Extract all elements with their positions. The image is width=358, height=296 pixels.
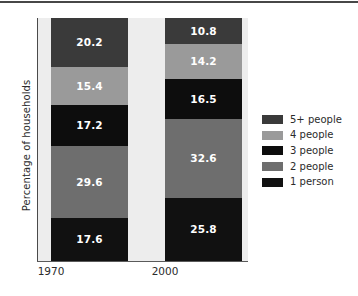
legend-swatch-icon xyxy=(262,178,283,187)
y-axis-title: Percentage of households xyxy=(21,46,32,246)
legend-item-5--people[interactable]: 5+ people xyxy=(262,112,354,128)
bar-segment-3-people[interactable]: 17.2 xyxy=(51,105,128,147)
bar-segment-value: 32.6 xyxy=(190,153,217,164)
bar-segment-5--people[interactable]: 20.2 xyxy=(51,18,128,67)
bar-segment-4-people[interactable]: 14.2 xyxy=(165,44,242,79)
bar-2000[interactable]: 25.832.616.514.210.8 xyxy=(165,18,242,261)
bar-segment-1-person[interactable]: 17.6 xyxy=(51,218,128,261)
legend-item-4-people[interactable]: 4 people xyxy=(262,128,354,144)
legend-swatch-icon xyxy=(262,131,283,140)
bar-segment-2-people[interactable]: 32.6 xyxy=(165,119,242,198)
bar-segment-value: 15.4 xyxy=(76,81,103,92)
legend-swatch-icon xyxy=(262,162,283,171)
bar-segment-1-person[interactable]: 25.8 xyxy=(165,198,242,261)
bar-segment-5--people[interactable]: 10.8 xyxy=(165,18,242,44)
legend-item-label: 2 people xyxy=(290,162,333,172)
legend-item-2-people[interactable]: 2 people xyxy=(262,159,354,175)
legend-item-3-people[interactable]: 3 people xyxy=(262,143,354,159)
x-tick-label-2000: 2000 xyxy=(120,265,210,277)
bar-1970[interactable]: 17.629.617.215.420.2 xyxy=(51,18,128,261)
bar-segment-value: 25.8 xyxy=(190,224,217,235)
legend-item-1-person[interactable]: 1 person xyxy=(262,174,354,190)
legend-item-label: 4 people xyxy=(290,130,333,140)
bar-segment-value: 14.2 xyxy=(190,56,217,67)
legend-item-label: 5+ people xyxy=(290,115,342,125)
bar-segment-2-people[interactable]: 29.6 xyxy=(51,146,128,218)
x-axis-line xyxy=(37,261,248,262)
bar-segment-value: 17.2 xyxy=(76,120,103,131)
bar-segment-value: 29.6 xyxy=(76,177,103,188)
bar-segment-4-people[interactable]: 15.4 xyxy=(51,67,128,104)
chart-legend: 5+ people4 people3 people2 people1 perso… xyxy=(262,112,354,190)
bar-segment-value: 10.8 xyxy=(190,26,217,37)
bar-segment-value: 17.6 xyxy=(76,234,103,245)
legend-swatch-icon xyxy=(262,115,283,124)
bar-segment-3-people[interactable]: 16.5 xyxy=(165,79,242,119)
legend-swatch-icon xyxy=(262,146,283,155)
legend-item-label: 1 person xyxy=(290,177,334,187)
x-tick-label-1970: 1970 xyxy=(6,265,96,277)
plot-area: 17.629.617.215.420.2 25.832.616.514.210.… xyxy=(38,18,248,261)
legend-item-label: 3 people xyxy=(290,146,333,156)
bar-segment-value: 20.2 xyxy=(76,37,103,48)
bar-segment-value: 16.5 xyxy=(190,94,217,105)
stacked-bar-chart: Percentage of households 17.629.617.215.… xyxy=(0,0,358,296)
